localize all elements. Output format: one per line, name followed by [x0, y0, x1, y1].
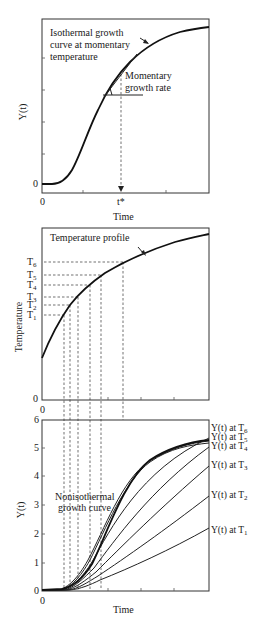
annotation-temperature-profile: Temperature profile: [50, 232, 130, 243]
y-axis-label: Y(t): [15, 502, 27, 519]
svg-text:Y(t) at T3: Y(t) at T3: [211, 460, 248, 472]
x-tick-0: 0: [40, 196, 45, 207]
svg-text:5: 5: [34, 442, 39, 453]
isothermal-curves: [42, 438, 209, 590]
curve-t-lowest: [42, 528, 209, 590]
annotation-isothermal-3: temperature: [50, 51, 98, 62]
arrow-icon: [143, 39, 149, 44]
x-tick-0: 0: [40, 595, 45, 606]
annotation-momentary-2: growth rate: [125, 82, 171, 93]
plot-frame: [42, 228, 209, 400]
nonisothermal-growth-panel: Nonisothermal growth curve 0 1 2 3 4 5 6…: [15, 414, 248, 615]
svg-text:6: 6: [34, 414, 39, 425]
figure: Isothermal growth curve at momentary tem…: [0, 0, 261, 627]
y-axis-label: Temperature: [13, 301, 24, 352]
svg-text:1: 1: [34, 557, 39, 568]
curve-t5: [42, 443, 209, 590]
svg-text:4: 4: [34, 470, 39, 481]
curve-t2: [42, 466, 209, 590]
annotation-nonisothermal-2: growth curve: [58, 502, 112, 513]
curve-t3: [42, 447, 209, 590]
annotation-nonisothermal-1: Nonisothermal: [55, 491, 115, 502]
svg-text:3: 3: [34, 499, 39, 510]
y-tick-labels: 0 1 2 3 4 5 6: [34, 414, 39, 596]
x-tick-0: 0: [40, 404, 45, 415]
x-axis-label: Time: [113, 604, 134, 615]
annotation-isothermal-2: curve at momentary: [50, 39, 130, 50]
svg-text:0: 0: [34, 585, 39, 596]
temperature-level-labels: T6 T5 T4 T3 T2 T1: [27, 256, 37, 322]
angle-marker: [110, 88, 112, 95]
annotation-momentary-1: Momentary: [125, 70, 172, 81]
y-axis-label: Y(t): [17, 104, 29, 121]
svg-text:Y(t) at T2: Y(t) at T2: [211, 490, 248, 502]
svg-text:Y(t) at T1: Y(t) at T1: [211, 525, 248, 537]
y-tick-0: 0: [33, 178, 38, 189]
svg-text:T6: T6: [27, 256, 37, 269]
annotation-isothermal-1: Isothermal growth: [50, 27, 124, 38]
temperature-profile-curve: [42, 234, 209, 358]
svg-text:Y(t) at T4: Y(t) at T4: [211, 441, 248, 453]
y-tick-0: 0: [33, 393, 38, 404]
curve-labels: Y(t) at T6 Y(t) at T5 Y(t) at T4 Y(t) at…: [211, 423, 248, 537]
isothermal-growth-panel: Isothermal growth curve at momentary tem…: [17, 19, 209, 222]
arrow-down-icon: [118, 186, 124, 192]
x-axis-label: Time: [113, 211, 134, 222]
curve-t4: [42, 438, 209, 590]
svg-text:2: 2: [34, 528, 39, 539]
x-tick-tstar: t*: [117, 196, 125, 207]
